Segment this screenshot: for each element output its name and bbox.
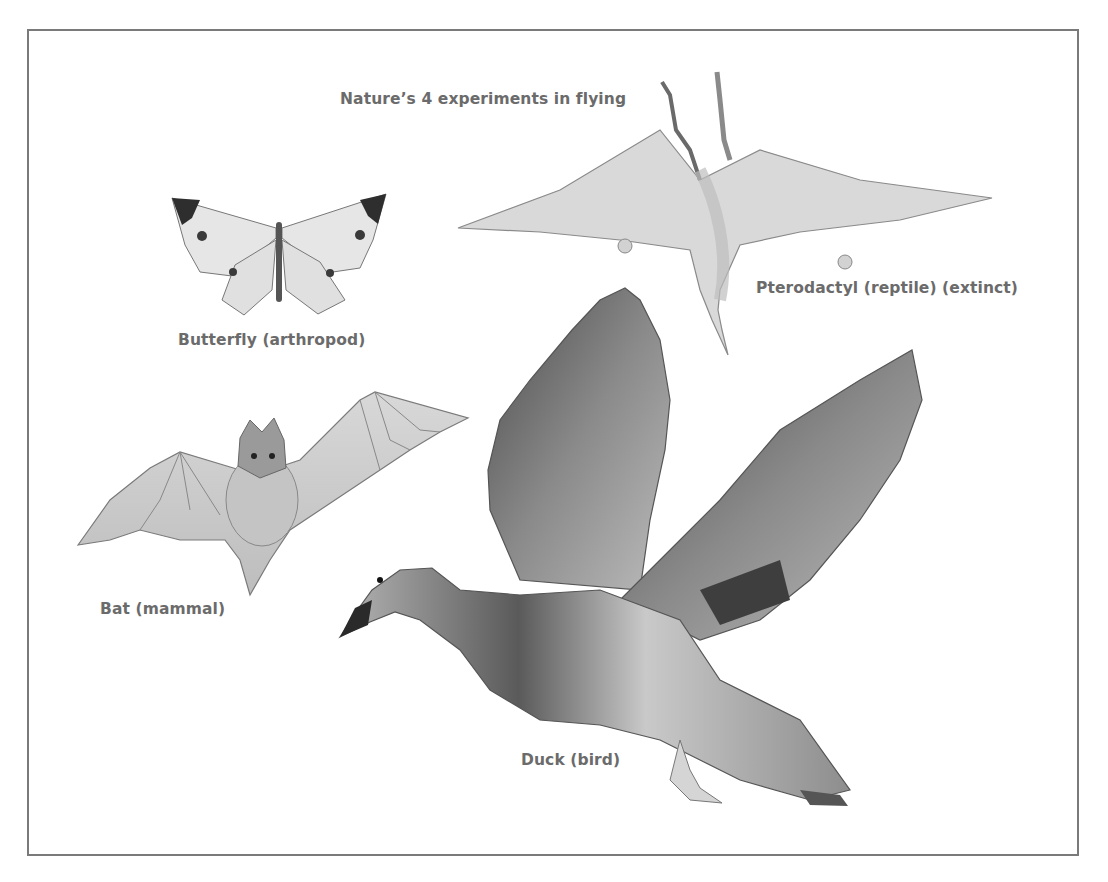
bat-illustration (78, 392, 468, 595)
pterodactyl-illustration (458, 72, 992, 355)
duck-label: Duck (bird) (521, 751, 620, 769)
butterfly-illustration (172, 194, 386, 315)
figure-title: Nature’s 4 experiments in flying (340, 90, 626, 108)
butterfly-label: Butterfly (arthropod) (178, 331, 365, 349)
figure-illustrations (0, 0, 1108, 882)
bat-label: Bat (mammal) (100, 600, 225, 618)
pterodactyl-label: Pterodactyl (reptile) (extinct) (756, 279, 1018, 297)
duck-illustration (340, 288, 922, 806)
